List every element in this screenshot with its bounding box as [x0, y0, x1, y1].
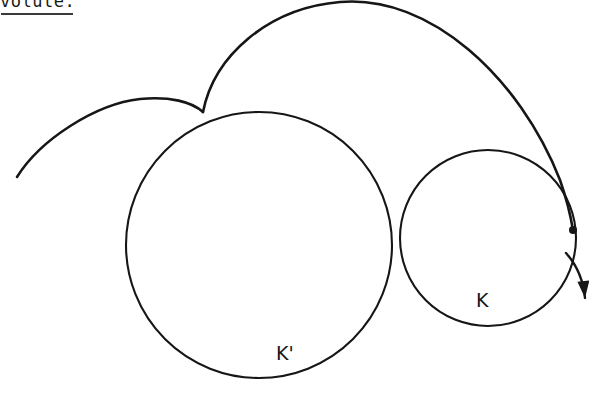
- direction-arrow-head: [577, 281, 589, 298]
- involute-drawing: [0, 0, 589, 394]
- main-involute-arc: [203, 1, 573, 230]
- tracing-point-dot: [569, 226, 577, 234]
- circle-k-prime: [126, 112, 392, 378]
- circle-label-k: K: [476, 289, 488, 311]
- circle-label-k-prime: K': [276, 342, 294, 364]
- left-involute-arc: [17, 98, 203, 177]
- figure-canvas: volute. K K': [0, 0, 589, 394]
